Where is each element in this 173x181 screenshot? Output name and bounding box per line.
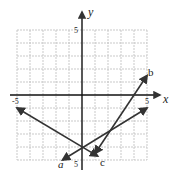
y-tick-5: 5 — [74, 26, 78, 35]
line-c — [17, 108, 98, 156]
y-tick-neg5: 5 — [74, 160, 78, 169]
x-tick-neg5: -5 — [12, 97, 19, 106]
x-axis-label: x — [162, 92, 169, 106]
coordinate-graph: y x 5 5 -5 5 a b c — [0, 0, 173, 181]
x-tick-5: 5 — [145, 97, 149, 106]
line-a-label: a — [58, 158, 64, 170]
y-axis-label: y — [87, 5, 94, 19]
line-b-label: b — [148, 66, 154, 78]
line-c-label: c — [100, 156, 105, 168]
